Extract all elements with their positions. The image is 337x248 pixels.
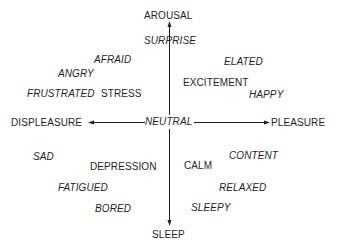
arrow-right-icon — [264, 121, 270, 125]
emotion-frustrated: FRUSTRATED — [27, 88, 94, 100]
axis-label-displeasure: DISPLEASURE — [11, 117, 82, 129]
emotion-angry: ANGRY — [58, 68, 94, 80]
arrow-left-icon — [88, 121, 94, 125]
emotion-bored: BORED — [95, 203, 131, 215]
axis-label-pleasure: PLEASURE — [271, 117, 325, 129]
emotion-happy: HAPPY — [249, 89, 283, 101]
emotion-calm: CALM — [184, 160, 212, 172]
emotion-relaxed: RELAXED — [219, 182, 266, 194]
emotion-sad: SAD — [33, 151, 54, 163]
emotion-afraid: AFRAID — [94, 54, 131, 66]
emotion-excitement: EXCITEMENT — [183, 77, 248, 89]
emotion-depression: DEPRESSION — [90, 161, 157, 173]
emotion-fatigued: FATIGUED — [58, 182, 108, 194]
emotion-surprise: SURPRISE — [144, 35, 196, 47]
arrow-down-icon — [168, 220, 172, 226]
emotion-sleepy: SLEEPY — [191, 202, 231, 214]
axis-label-sleep: SLEEP — [152, 229, 185, 241]
axis-label-arousal: AROUSAL — [144, 10, 193, 22]
emotion-content: CONTENT — [229, 150, 278, 162]
center-label-neutral: NEUTRAL — [145, 116, 192, 128]
emotion-stress: STRESS — [101, 88, 142, 100]
emotion-elated: ELATED — [224, 56, 263, 68]
